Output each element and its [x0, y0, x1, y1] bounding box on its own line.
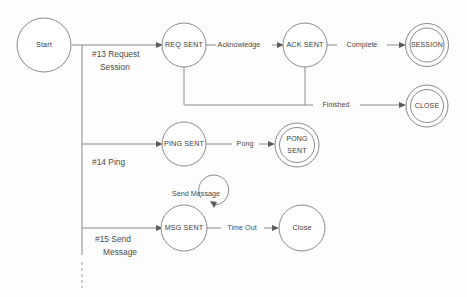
branch-label-request-session-line1: #13 Request: [92, 49, 140, 59]
arrowhead-close-plain: [272, 225, 279, 231]
node-ping-sent-label: PING SENT: [164, 139, 205, 148]
node-msg-sent[interactable]: MSG SENT: [161, 205, 207, 251]
node-pong-sent-inner-circle: [280, 128, 315, 163]
node-pong-sent[interactable]: PONG SENT: [275, 123, 319, 167]
branch-label-send-message-line1: #15 Send: [95, 234, 131, 244]
node-msg-sent-label: MSG SENT: [165, 223, 204, 232]
node-close-final[interactable]: CLOSE: [406, 85, 448, 127]
node-pong-sent-label-line1: PONG: [286, 135, 307, 142]
arrowhead-session: [399, 42, 406, 48]
node-ping-sent[interactable]: PING SENT: [162, 122, 206, 166]
edge-label-time-out: Time Out: [227, 223, 256, 232]
edge-label-complete: Complete: [347, 40, 378, 49]
branch-label-send-message-line2: Message: [103, 247, 137, 257]
node-close-plain-label: Close: [292, 223, 311, 232]
edge-label-pong: Pong: [237, 139, 254, 148]
edge-label-acknowledge: Acknowledge: [218, 40, 261, 49]
node-req-sent-label: REQ SENT: [165, 40, 203, 49]
node-session[interactable]: SESSION: [406, 24, 449, 67]
node-pong-sent-label-line2: SENT: [287, 147, 307, 154]
edge-label-finished: Finished: [322, 100, 349, 109]
node-start-label: Start: [36, 40, 52, 49]
arrowhead-pong-sent: [268, 141, 275, 147]
edge-req-finished-drop: [184, 66, 305, 105]
edge-label-send-message: Send Message: [172, 189, 220, 198]
diagram-canvas: Start REQ SENT ACK SENT SESSION CLOSE PI…: [0, 0, 467, 297]
node-start[interactable]: Start: [17, 18, 71, 72]
branch-label-ping: #14 Ping: [92, 157, 125, 167]
node-ack-sent-label: ACK SENT: [286, 40, 324, 49]
node-close-plain[interactable]: Close: [279, 205, 325, 251]
arrowhead-close-final: [399, 102, 406, 108]
branch-label-request-session-line2: Session: [100, 62, 130, 72]
node-close-final-label: CLOSE: [415, 102, 440, 109]
node-req-sent[interactable]: REQ SENT: [162, 23, 206, 67]
node-session-label: SESSION: [411, 41, 443, 48]
node-ack-sent[interactable]: ACK SENT: [283, 23, 327, 67]
state-diagram: Start REQ SENT ACK SENT SESSION CLOSE PI…: [0, 0, 467, 297]
